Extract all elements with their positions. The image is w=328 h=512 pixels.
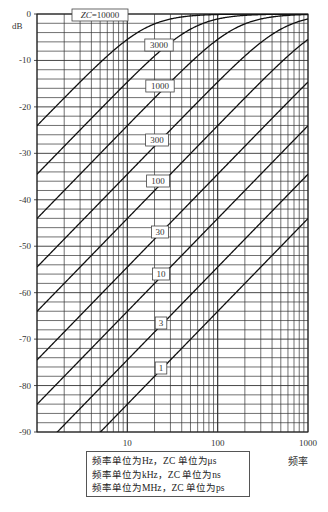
attenuation-chart: 0-10-20-30-40-50-60-70-80-90dB101001000Z… (0, 0, 328, 512)
y-tick-label: -90 (19, 427, 31, 437)
curve-label: 100 (151, 176, 165, 186)
x-axis-label: 频率 (288, 453, 308, 468)
legend-line-mhz: 频率单位为MHz，ZC 单位为ps (92, 482, 249, 496)
curve-label: 3000 (150, 40, 169, 50)
plot-frame (37, 14, 308, 432)
curve-label: 3 (159, 318, 164, 328)
y-axis-label: dB (12, 21, 23, 31)
curve-label: 1000 (151, 81, 170, 91)
unit-legend-box: 频率单位为Hz，ZC 单位为μs 频率单位为kHz，ZC 单位为ns 频率单位为… (86, 451, 250, 497)
y-tick-label: -30 (19, 148, 31, 158)
legend-line-hz: 频率单位为Hz，ZC 单位为μs (92, 455, 249, 469)
curve-label: 10 (157, 269, 167, 279)
y-tick-label: -50 (19, 241, 31, 251)
x-tick-label: 100 (211, 438, 225, 448)
curve-label: 1 (159, 363, 164, 373)
x-tick-label: 1000 (299, 438, 318, 448)
curve-label: ZC=10000 (81, 10, 120, 20)
legend-line-khz: 频率单位为kHz，ZC 单位为ns (92, 469, 249, 483)
y-tick-label: -60 (19, 288, 31, 298)
curve-zc-3 (37, 174, 308, 453)
y-tick-label: -80 (19, 381, 31, 391)
y-tick-label: -70 (19, 334, 31, 344)
curve-label: 300 (150, 135, 164, 145)
x-tick-label: 10 (123, 438, 133, 448)
y-tick-label: -10 (19, 55, 31, 65)
y-tick-label: -20 (19, 102, 31, 112)
curve-zc-30 (37, 82, 308, 360)
curve-label: 30 (156, 227, 166, 237)
y-tick-label: 0 (27, 9, 32, 19)
y-tick-label: -40 (19, 195, 31, 205)
curve-zc-300 (37, 19, 308, 267)
